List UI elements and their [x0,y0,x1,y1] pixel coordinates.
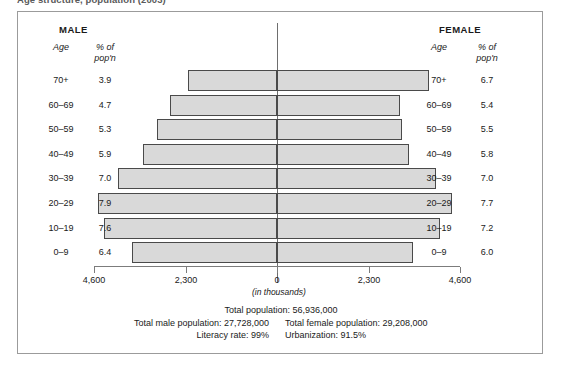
male-percent-label: 5.9 [85,149,125,159]
female-percent-label: 6.7 [467,75,507,85]
male-age-label: 60–69 [44,100,78,110]
male-bar [118,168,277,189]
footer-row-rates: Literacy rate: 99% Urbanization: 91.5% [18,329,544,342]
male-bar [104,218,277,239]
x-axis-tick [277,267,278,273]
female-age-label: 20–29 [422,198,456,208]
male-percent-label: 7.6 [85,223,125,233]
female-age-label: 10–19 [422,223,456,233]
female-bar [277,242,413,263]
female-age-label: 50–59 [422,124,456,134]
male-percent-label: 4.7 [85,100,125,110]
x-axis-tick [460,267,461,273]
x-axis-tick-label: 4,600 [435,275,485,285]
male-percent-label: 6.4 [85,247,125,257]
female-age-label: 0–9 [422,247,456,257]
female-column-heading: FEMALE [439,24,481,35]
female-age-label: 70+ [422,75,456,85]
female-age-label: 60–69 [422,100,456,110]
male-bar [132,242,277,263]
x-axis-tick [94,267,95,273]
x-axis-unit-label: (in thousands) [252,287,302,297]
literacy-rate-text: Literacy rate: 99% [18,329,277,342]
male-age-label: 70+ [44,75,78,85]
x-axis-tick [186,267,187,273]
footer-row-populations: Total male population: 27,728,000 Total … [18,317,544,330]
female-percent-label: 6.0 [467,247,507,257]
male-percent-label: 5.3 [85,124,125,134]
male-percent-label: 3.9 [85,75,125,85]
x-axis-tick-label: 2,300 [161,275,211,285]
female-percent-header-line1: % of [478,42,496,52]
female-bar [277,168,436,189]
female-percent-label: 5.8 [467,149,507,159]
male-age-label: 20–29 [44,198,78,208]
male-bar [143,144,277,165]
female-percent-label: 5.5 [467,124,507,134]
male-percent-label: 7.0 [85,173,125,183]
figure-frame: MALE FEMALE Age % of pop'n Age % of pop'… [17,11,543,354]
female-age-label: 40–49 [422,149,456,159]
total-female-population-text: Total female population: 29,208,000 [277,317,544,330]
female-bar [277,95,400,116]
male-column-heading: MALE [59,24,88,35]
male-bar [188,70,277,91]
urbanization-text: Urbanization: 91.5% [277,329,544,342]
male-percent-label: 7.9 [85,198,125,208]
female-percent-label: 5.4 [467,100,507,110]
footer-statistics: Total population: 56,936,000 Total male … [18,304,544,342]
female-percent-label: 7.7 [467,198,507,208]
total-male-population-text: Total male population: 27,728,000 [18,317,277,330]
x-axis-tick-label: 2,300 [344,275,394,285]
female-bar [277,119,402,140]
male-bar [170,95,277,116]
female-percent-label: 7.0 [467,173,507,183]
female-percent-header-line2: pop'n [476,53,498,63]
total-population-text: Total population: 56,936,000 [18,304,544,317]
female-percent-label: 7.2 [467,223,507,233]
female-bar [277,144,409,165]
chart-title: Age structure, population (2003) [17,0,537,5]
female-age-column-header: Age [422,42,456,53]
female-percent-column-header: % of pop'n [467,42,507,63]
male-age-label: 50–59 [44,124,78,134]
male-age-column-header: Age [44,42,78,53]
x-axis-tick-label: 4,600 [69,275,119,285]
female-bar [277,70,429,91]
male-bar [157,119,277,140]
male-age-label: 30–39 [44,173,78,183]
female-bar [277,218,440,239]
male-percent-header-line2: pop'n [94,53,116,63]
x-axis-tick-label: 0 [252,275,302,285]
male-percent-header-line1: % of [96,42,114,52]
male-age-label: 40–49 [44,149,78,159]
male-age-label: 0–9 [44,247,78,257]
male-age-label: 10–19 [44,223,78,233]
female-age-label: 30–39 [422,173,456,183]
x-axis-tick [369,267,370,273]
male-percent-column-header: % of pop'n [85,42,125,63]
